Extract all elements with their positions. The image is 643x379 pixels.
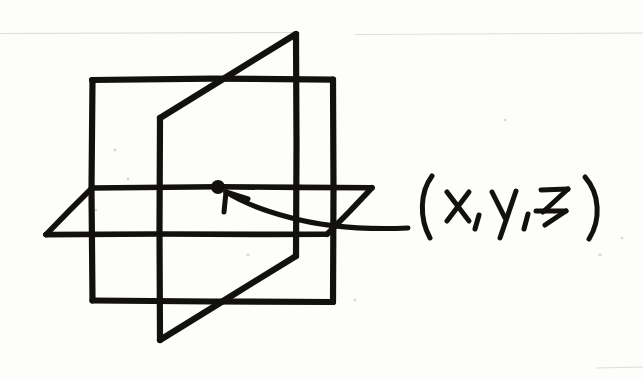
- marked-point: [211, 180, 225, 194]
- three-planes-diagram: (x , y , z): [0, 0, 643, 379]
- annotation-arrow: [224, 192, 408, 229]
- sketch-canvas: (x , y , z): [0, 0, 643, 379]
- point-label: [422, 176, 597, 239]
